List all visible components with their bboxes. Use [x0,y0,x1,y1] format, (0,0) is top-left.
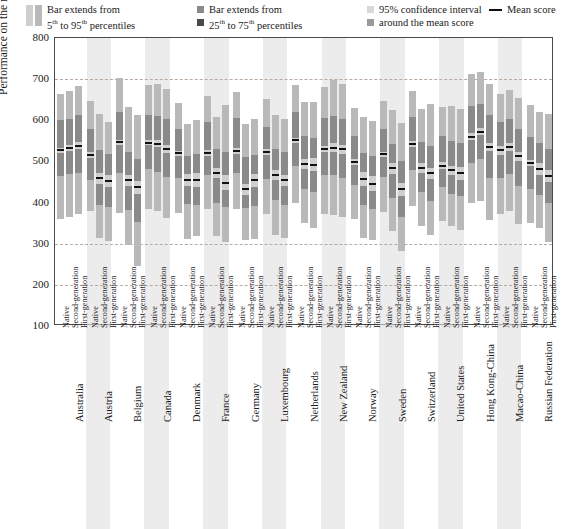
bar-united-states-native [439,107,446,221]
mean-score-line [154,143,161,145]
bar-australia-second-generation [66,91,73,217]
x-axis-labels: NativeSecond-generationFirst-generationA… [54,326,553,529]
bar-denmark-native [175,103,182,213]
mean-score-line [369,183,376,185]
country-label: Australia [74,384,85,423]
y-axis-tick-600: 600 [8,113,54,125]
bar-new-zealand-second-generation [330,80,337,215]
bar-united-states-first-generation [457,109,464,230]
generation-label: First-generation [550,276,558,328]
mean-score-line [301,163,308,165]
generation-label: First-generation [462,276,470,328]
mean-score-line [272,174,279,176]
generation-label: Native [503,306,511,328]
mean-score-line [545,175,552,177]
generation-label: Native [327,306,335,328]
country-label: Canada [162,391,173,423]
mean-score-line [468,136,475,138]
generation-label: First-generation [139,276,147,328]
y-axis-tick-300: 300 [8,237,54,249]
generation-label: First-generation [492,276,500,328]
bar-norway-second-generation [360,117,367,238]
bar-netherlands-native [292,85,299,203]
mean-score-line [321,148,328,150]
bar-macao-china-native [497,94,504,214]
iqr-segment [204,122,211,174]
mean-score-line [163,148,170,150]
iqr-segment [242,157,249,208]
bar-switzerland-first-generation [427,104,434,235]
generation-label: Second-generation [160,267,168,328]
generation-label: First-generation [316,276,324,328]
country-label: Denmark [191,383,202,422]
bar-belgium-native [116,78,123,213]
country-label: Luxembourg [279,368,290,422]
mean-score-line [96,177,103,179]
generation-label: Native [386,306,394,328]
bar-russian-federation-native [527,105,534,223]
mean-score-line [242,188,249,190]
y-axis-tick-400: 400 [8,196,54,208]
mean-score-line [57,149,64,151]
mean-score-line [134,186,141,188]
bar-france-native [204,96,211,209]
generation-label: Native [298,306,306,328]
bar-sweden-first-generation [398,123,405,251]
country-label: New Zealand [338,366,349,422]
generation-label: First-generation [374,276,382,328]
bar-australia-native [57,94,64,219]
mean-score-line [251,179,258,181]
generation-label: Native [268,306,276,328]
bar-russian-federation-first-generation [545,114,552,242]
mean-score-line [233,150,240,152]
legend-label-mean: Mean score [489,4,556,15]
mean-score-line [418,167,425,169]
mean-score-line [506,146,513,148]
generation-label: First-generation [198,276,206,328]
country-label: Hong Kong-China [485,344,496,422]
bar-canada-native [145,85,152,208]
bar-canada-first-generation [163,89,170,218]
mean-score-line [105,180,112,182]
generation-label: First-generation [169,276,177,328]
bar-austria-second-generation [96,114,103,238]
generation-label: First-generation [227,276,235,328]
bar-sweden-native [380,101,387,212]
mean-score-line [204,152,211,154]
mean-score-line [222,182,229,184]
mean-score-line [389,167,396,169]
generation-label: Second-generation [101,267,109,328]
mean-score-line [184,179,191,181]
mean-score-line [193,179,200,181]
mean-score-line [66,147,73,149]
country-label: Macao-China [514,365,525,422]
bar-australia-first-generation [75,86,82,214]
mean-score-line [477,131,484,133]
bar-hong-kong-china-second-generation [477,72,484,201]
generation-label: First-generation [345,276,353,328]
iqr-segment [233,118,240,173]
generation-label: Second-generation [336,267,344,328]
mean-score-line [263,151,270,153]
mean-score-line [360,178,367,180]
bar-norway-first-generation [369,121,376,239]
bar-germany-native [233,92,240,208]
generation-label: First-generation [257,276,265,328]
bar-luxembourg-first-generation [281,119,288,239]
mean-score-line [310,164,317,166]
mean-score-line [486,146,493,148]
generation-label: First-generation [521,276,529,328]
bar-switzerland-second-generation [418,109,425,226]
generation-label: Native [151,306,159,328]
country-label: Russian Federation [543,341,554,422]
bar-switzerland-native [409,91,416,206]
legend-item-mean: Mean score [489,4,556,15]
legend-label-p5-95: Bar extends from 5th to 95th percentiles [47,4,135,28]
bar-luxembourg-second-generation [272,115,279,235]
bar-netherlands-second-generation [301,102,308,223]
mean-score-line [75,145,82,147]
generation-label: Native [63,306,71,328]
bar-russian-federation-second-generation [536,112,543,228]
country-label: France [220,393,231,422]
bar-hong-kong-china-native [468,74,475,203]
